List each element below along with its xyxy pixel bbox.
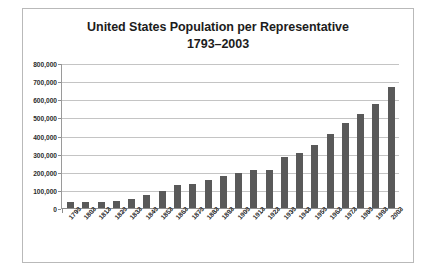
bar-slot	[109, 64, 124, 208]
bar-slot	[185, 64, 200, 208]
bar	[327, 134, 334, 208]
bar-slot	[368, 64, 383, 208]
bar-slot	[292, 64, 307, 208]
plot-wrapper: 800,000700,000600,000500,000400,000300,0…	[61, 64, 399, 209]
bar-slot	[124, 64, 139, 208]
bar-slot	[323, 64, 338, 208]
bar	[372, 104, 379, 208]
y-axis-tick-mark	[58, 155, 61, 156]
bar	[311, 145, 318, 208]
y-axis-tick-mark	[58, 137, 61, 138]
chart-figure: United States Population per Representat…	[22, 8, 414, 263]
y-axis-tick-label: 600,000	[0, 97, 57, 104]
bar	[296, 153, 303, 208]
bar-slot	[78, 64, 93, 208]
y-axis-tick-label: 100,000	[0, 188, 57, 195]
bar-series	[63, 64, 399, 208]
bar-slot	[216, 64, 231, 208]
bar	[143, 195, 150, 208]
bar	[189, 184, 196, 208]
bar	[113, 201, 120, 208]
y-axis-tick-mark	[58, 191, 61, 192]
bar-slot	[338, 64, 353, 208]
bar-slot	[155, 64, 170, 208]
bar-slot	[200, 64, 215, 208]
bar	[235, 173, 242, 208]
bar-slot	[384, 64, 399, 208]
y-axis-tick-label: 700,000	[0, 79, 57, 86]
bar-slot	[261, 64, 276, 208]
bar	[357, 114, 364, 208]
bar	[220, 176, 227, 208]
y-axis-tick-mark	[58, 209, 61, 210]
bar-slot	[353, 64, 368, 208]
bar	[205, 180, 212, 208]
bar	[250, 170, 257, 208]
bar-slot	[170, 64, 185, 208]
y-axis-tick-mark	[58, 173, 61, 174]
chart-title-block: United States Population per Representat…	[23, 19, 413, 53]
y-axis-tick-label: 400,000	[0, 134, 57, 141]
bar-slot	[307, 64, 322, 208]
bar	[281, 157, 288, 208]
y-axis-tick-label: 0	[0, 206, 57, 213]
bar	[388, 87, 395, 208]
y-axis-tick-label: 500,000	[0, 115, 57, 122]
bar-slot	[139, 64, 154, 208]
plot-area	[61, 64, 399, 209]
y-axis-tick-label: 200,000	[0, 170, 57, 177]
x-axis-labels: 1793180318131823183318431853186318731883…	[62, 210, 400, 258]
bar	[128, 199, 135, 208]
y-axis-tick-mark	[58, 64, 61, 65]
y-axis-tick-label: 300,000	[0, 152, 57, 159]
bar	[159, 191, 166, 208]
bar	[342, 123, 349, 208]
y-axis-tick-mark	[58, 100, 61, 101]
bar-slot	[277, 64, 292, 208]
y-axis-tick-label: 800,000	[0, 61, 57, 68]
bar	[266, 170, 273, 208]
y-axis-tick-mark	[58, 118, 61, 119]
page-title: United States Population per Representat…	[23, 19, 413, 36]
bar-slot	[94, 64, 109, 208]
chart-subtitle: 1793–2003	[23, 36, 413, 53]
bar-slot	[231, 64, 246, 208]
bar	[174, 185, 181, 208]
bar-slot	[63, 64, 78, 208]
bar-slot	[246, 64, 261, 208]
y-axis-tick-mark	[58, 82, 61, 83]
